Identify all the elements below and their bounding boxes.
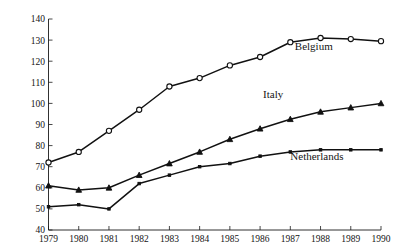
x-tick-label: 1980 [69,234,88,244]
data-point-open-circle [288,40,293,45]
data-point-open-circle [106,128,111,133]
y-tick-label: 60 [36,183,46,193]
x-tick-label: 1983 [160,234,179,244]
line-chart: 405060708090100110120130140 197919801981… [0,0,401,250]
y-tick-label: 120 [31,57,46,67]
data-point-open-circle [137,107,142,112]
series-labels: BelgiumItalyNetherlands [263,40,343,163]
data-point-open-circle [227,63,232,68]
y-tick-label: 140 [31,14,46,24]
data-point-filled-square [350,149,353,152]
data-point-open-circle [378,39,383,44]
y-tick-label: 90 [36,120,46,130]
data-point-filled-square [229,162,232,165]
x-tick-label: 1986 [251,234,270,244]
y-axis: 405060708090100110120130140 [31,14,53,235]
x-tick-label: 1981 [99,234,118,244]
x-tick-label: 1984 [190,234,209,244]
x-tick-label: 1988 [311,234,330,244]
y-tick-label: 100 [31,99,46,109]
x-tick-label: 1987 [281,234,300,244]
y-tick-label: 50 [36,204,46,214]
data-point-filled-square [77,203,80,206]
data-point-filled-square [47,206,50,209]
data-point-filled-square [259,155,262,158]
series-line-belgium [49,38,382,162]
series-line-italy [49,103,382,190]
chart-svg: 405060708090100110120130140 197919801981… [0,0,401,250]
data-point-filled-square [168,174,171,177]
x-tick-label: 1989 [341,234,360,244]
series-label-belgium: Belgium [295,40,333,52]
x-tick-label: 1985 [220,234,239,244]
x-tick-label: 1990 [372,234,391,244]
series-italy [46,100,384,192]
data-point-open-circle [348,36,353,41]
data-point-open-circle [257,54,262,59]
data-point-open-circle [197,75,202,80]
series-label-netherlands: Netherlands [290,150,343,162]
x-tick-label: 1982 [130,234,149,244]
data-point-filled-square [108,208,111,211]
data-point-open-circle [76,149,81,154]
y-tick-label: 70 [36,162,46,172]
data-point-open-circle [167,84,172,89]
y-tick-label: 130 [31,36,46,46]
x-axis: 1979198019811982198319841985198619871988… [39,226,391,244]
data-point-open-circle [46,160,51,165]
y-tick-label: 110 [31,78,45,88]
data-point-filled-square [380,149,383,152]
data-point-filled-square [198,165,201,168]
series-label-italy: Italy [263,88,284,100]
x-tick-label: 1979 [39,234,58,244]
series-layer [46,35,384,210]
data-point-filled-square [138,182,141,185]
y-tick-label: 80 [36,141,46,151]
